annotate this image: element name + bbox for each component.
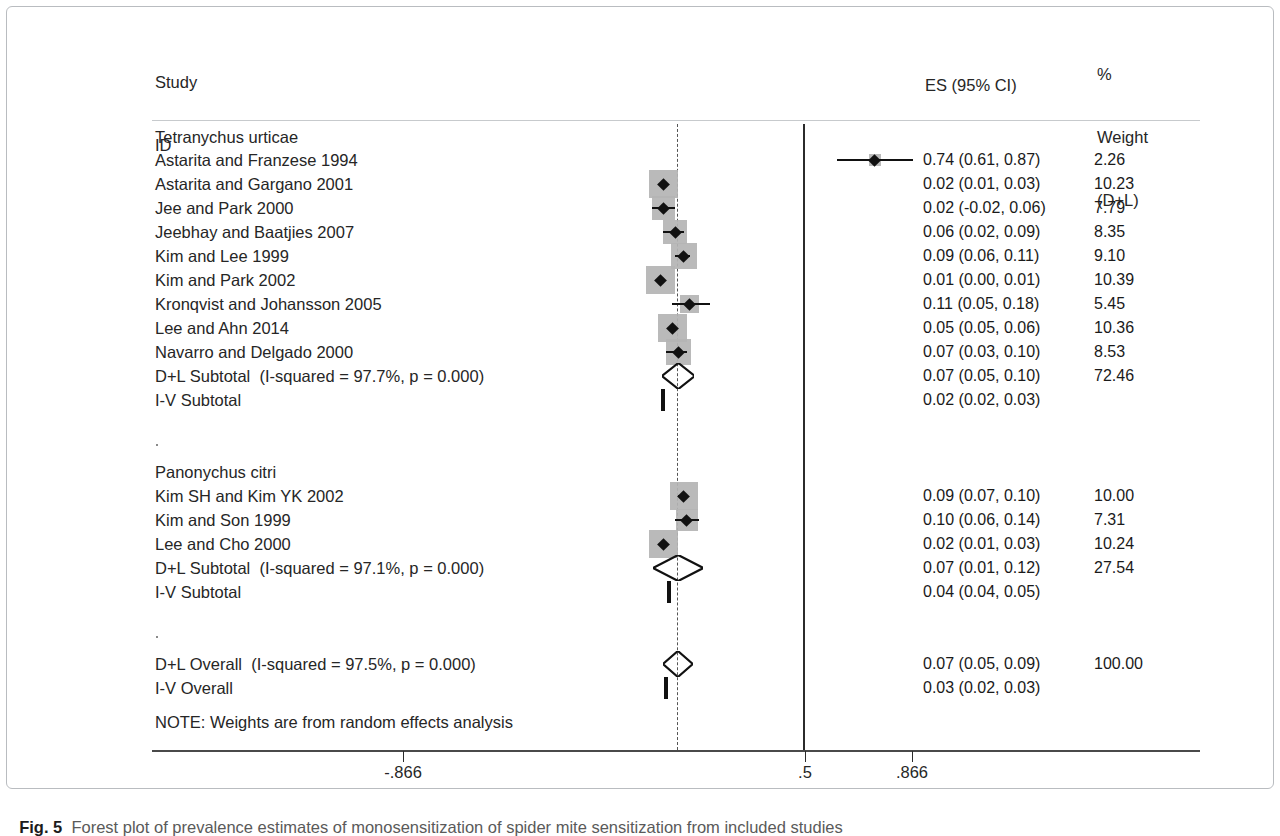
axis-tick-label: .5 xyxy=(798,763,812,782)
weight-value: 5.45 xyxy=(1094,295,1125,313)
group-label: Panonychus citri xyxy=(155,463,276,481)
weight-header-line1: % xyxy=(1097,64,1148,85)
study-label: Kronqvist and Johansson 2005 xyxy=(155,295,382,313)
es-value: 0.02 (0.01, 0.03) xyxy=(923,535,1040,553)
study-label: Kim SH and Kim YK 2002 xyxy=(155,487,344,505)
summary-label: D+L Subtotal (I-squared = 97.7%, p = 0.0… xyxy=(155,367,484,385)
es-column-header: ES (95% CI) xyxy=(925,75,1017,96)
weight-value: 7.79 xyxy=(1094,199,1125,217)
weight-value: 10.39 xyxy=(1094,271,1134,289)
summary-label: I-V Subtotal xyxy=(155,583,241,601)
summary-diamond xyxy=(653,555,703,581)
summary-label: D+L Subtotal (I-squared = 97.1%, p = 0.0… xyxy=(155,559,484,577)
axis-tick xyxy=(403,751,404,762)
es-value: 0.74 (0.61, 0.87) xyxy=(923,151,1040,169)
weight-value: 10.24 xyxy=(1094,535,1134,553)
weight-value: 10.36 xyxy=(1094,319,1134,337)
weight-value: 8.53 xyxy=(1094,343,1125,361)
study-label: Navarro and Delgado 2000 xyxy=(155,343,353,361)
summary-label: D+L Overall (I-squared = 97.5%, p = 0.00… xyxy=(155,655,476,673)
es-value: 0.06 (0.02, 0.09) xyxy=(923,223,1040,241)
weight-value: 10.23 xyxy=(1094,175,1134,193)
es-value: 0.11 (0.05, 0.18) xyxy=(923,295,1039,313)
study-label: Jee and Park 2000 xyxy=(155,199,294,217)
study-label: Kim and Son 1999 xyxy=(155,511,291,529)
summary-label: I-V Subtotal xyxy=(155,391,241,409)
study-label: Kim and Lee 1999 xyxy=(155,247,289,265)
study-label: Lee and Cho 2000 xyxy=(155,535,291,553)
es-value: 0.02 (0.01, 0.03) xyxy=(923,175,1040,193)
iv-summary-bar xyxy=(667,581,671,603)
es-value: 0.10 (0.06, 0.14) xyxy=(923,511,1040,529)
weight-column-header: % Weight (D+L) xyxy=(1097,22,1148,253)
es-value: 0.02 (-0.02, 0.06) xyxy=(923,199,1046,217)
es-value: 0.04 (0.04, 0.05) xyxy=(923,583,1040,601)
weight-value: 100.00 xyxy=(1094,655,1143,673)
es-value: 0.02 (0.02, 0.03) xyxy=(923,391,1040,409)
weight-value: 8.35 xyxy=(1094,223,1125,241)
study-header-line1: Study xyxy=(155,72,197,93)
header-rule xyxy=(152,120,1200,121)
study-label: Astarita and Franzese 1994 xyxy=(155,151,358,169)
axis-tick-label: .866 xyxy=(896,763,928,782)
weight-header-line2: Weight xyxy=(1097,127,1148,148)
axis-tick xyxy=(805,751,806,762)
spacer-dot xyxy=(156,636,158,638)
forest-plot: Study ID ES (95% CI) % Weight (D+L) Tetr… xyxy=(0,0,1280,790)
weight-value: 9.10 xyxy=(1094,247,1125,265)
spacer-dot xyxy=(156,444,158,446)
figure-number: Fig. 5 xyxy=(19,818,62,836)
figure-caption: Fig. 5 Forest plot of prevalence estimat… xyxy=(10,799,1270,836)
es-value: 0.01 (0.00, 0.01) xyxy=(923,271,1040,289)
es-value: 0.07 (0.03, 0.10) xyxy=(923,343,1040,361)
summary-diamond xyxy=(662,363,695,389)
es-value: 0.07 (0.05, 0.09) xyxy=(923,655,1040,673)
summary-label: I-V Overall xyxy=(155,679,233,697)
iv-summary-bar xyxy=(664,677,668,699)
es-value: 0.03 (0.02, 0.03) xyxy=(923,679,1040,697)
iv-summary-bar xyxy=(661,389,665,411)
weight-value: 10.00 xyxy=(1094,487,1134,505)
weight-value: 27.54 xyxy=(1094,559,1134,577)
weight-value: 72.46 xyxy=(1094,367,1134,385)
note-text: NOTE: Weights are from random effects an… xyxy=(155,713,513,731)
axis-tick xyxy=(912,751,913,762)
study-label: Jeebhay and Baatjies 2007 xyxy=(155,223,354,241)
group-label: Tetranychus urticae xyxy=(155,128,298,146)
es-value: 0.09 (0.07, 0.10) xyxy=(923,487,1040,505)
es-value: 0.07 (0.05, 0.10) xyxy=(923,367,1040,385)
axis-tick-label: -.866 xyxy=(384,763,422,782)
study-label: Lee and Ahn 2014 xyxy=(155,319,289,337)
study-column-header: Study ID xyxy=(155,30,197,198)
es-value: 0.07 (0.01, 0.12) xyxy=(923,559,1040,577)
study-label: Astarita and Gargano 2001 xyxy=(155,175,353,193)
figure-caption-text: Forest plot of prevalence estimates of m… xyxy=(71,818,842,836)
study-label: Kim and Park 2002 xyxy=(155,271,295,289)
es-value: 0.09 (0.06, 0.11) xyxy=(923,247,1039,265)
null-reference-line xyxy=(803,124,805,750)
weight-value: 2.26 xyxy=(1094,151,1125,169)
summary-diamond xyxy=(663,651,693,677)
es-value: 0.05 (0.05, 0.06) xyxy=(923,319,1040,337)
axis-rule xyxy=(152,750,1200,752)
weight-value: 7.31 xyxy=(1094,511,1125,529)
